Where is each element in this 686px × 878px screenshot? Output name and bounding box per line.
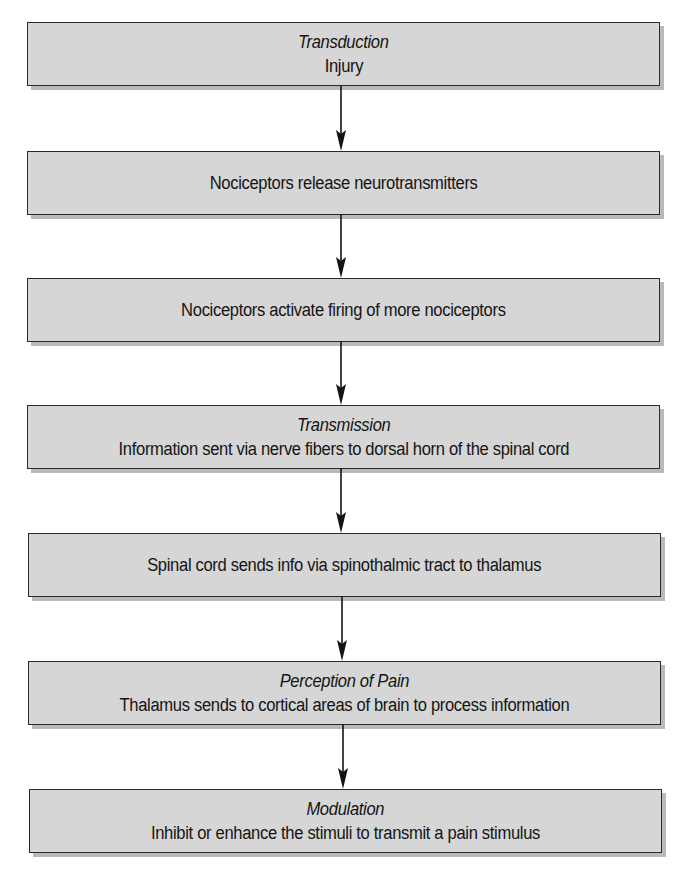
step-box-transmission: Transmission Information sent via nerve … [27, 405, 660, 469]
arrow-down-icon [335, 214, 347, 278]
step-box-transduction: Transduction Injury [27, 22, 660, 86]
arrow-down-icon [335, 468, 347, 533]
step-text: Inhibit or enhance the stimuli to transm… [151, 821, 540, 845]
step-heading: Transduction [298, 30, 389, 54]
step-text: Spinal cord sends info via spinothalmic … [147, 553, 541, 577]
step-text: Nociceptors activate firing of more noci… [181, 298, 506, 322]
step-text: Injury [324, 54, 363, 78]
step-heading: Transmission [297, 413, 390, 437]
arrow-down-icon [336, 596, 348, 661]
arrow-down-icon [335, 341, 347, 405]
step-box-modulation: Modulation Inhibit or enhance the stimul… [29, 789, 662, 853]
step-box-perception-of-pain: Perception of Pain Thalamus sends to cor… [28, 661, 661, 725]
step-box-spinothalamic-tract: Spinal cord sends info via spinothalmic … [28, 533, 661, 597]
step-box-activate-firing: Nociceptors activate firing of more noci… [27, 278, 660, 342]
step-box-release-neurotransmitters: Nociceptors release neurotransmitters [27, 151, 660, 215]
pain-process-flowchart: Transduction Injury Nociceptors release … [0, 0, 686, 878]
step-heading: Modulation [307, 797, 385, 821]
arrow-down-icon [335, 86, 347, 151]
step-text: Nociceptors release neurotransmitters [210, 171, 478, 195]
step-text: Thalamus sends to cortical areas of brai… [120, 693, 570, 717]
arrow-down-icon [337, 724, 349, 789]
step-heading: Perception of Pain [280, 669, 410, 693]
step-text: Information sent via nerve fibers to dor… [118, 437, 569, 461]
